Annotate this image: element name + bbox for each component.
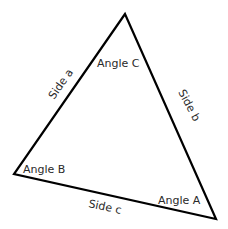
angle-a-label: Angle A bbox=[158, 194, 201, 207]
side-b-label: Side b bbox=[175, 87, 203, 123]
angle-b-label: Angle B bbox=[23, 163, 65, 176]
angle-c-label: Angle C bbox=[97, 57, 140, 70]
side-a-label: Side a bbox=[46, 66, 76, 101]
triangle-diagram: Angle C Angle B Angle A Side a Side b Si… bbox=[0, 0, 228, 229]
triangle-shape bbox=[14, 14, 216, 219]
triangle-svg: Angle C Angle B Angle A Side a Side b Si… bbox=[0, 0, 228, 229]
side-c-label: Side c bbox=[87, 197, 122, 217]
